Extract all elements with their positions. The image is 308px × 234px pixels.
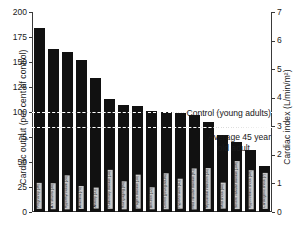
bar-label: Pulmonary disease (10) bbox=[107, 170, 112, 209]
bar: Mild valvular disease (61) bbox=[189, 115, 200, 212]
bar-label: Hyperthyroidism (20) bbox=[65, 175, 70, 209]
y-axis-right-title: Cardiac index (L/min/m²) bbox=[282, 42, 292, 192]
bar: Paget's disease (10) bbox=[132, 106, 143, 212]
bar: Anxiety (31) bbox=[90, 78, 101, 212]
bar-label: Hypertension (41) bbox=[178, 179, 183, 209]
y-tick-label-right: 0 bbox=[277, 208, 282, 217]
annotation-average-line2: old adult bbox=[218, 143, 251, 153]
bar-label: Cardiogenic shock (7) bbox=[262, 173, 267, 209]
y-tick-label-left: 0 bbox=[22, 208, 27, 217]
y-tick-label-left: 200 bbox=[13, 8, 27, 17]
y-tick-right bbox=[272, 12, 275, 13]
bar-label: Beri-beri (12) bbox=[149, 187, 154, 209]
bar-label: Hypovolemic shock (48) bbox=[248, 170, 253, 209]
y-tick-label-right: 3 bbox=[277, 122, 282, 131]
y-tick-label-right: 2 bbox=[277, 150, 282, 159]
bar-label: Severe valvular disease (106) bbox=[234, 161, 239, 209]
bar-label: Mild shock (40) bbox=[220, 183, 225, 209]
bar-label: Control (young adults) bbox=[163, 173, 168, 209]
bar: Anaemia (70) bbox=[76, 60, 87, 212]
bar: Hyperthyroidism (20) bbox=[62, 52, 73, 212]
annotation-average-line1: Average 45 year bbox=[208, 132, 271, 142]
bar-label: Mild valvular disease (61) bbox=[192, 168, 197, 209]
y-tick-right bbox=[272, 41, 275, 42]
bar-label: Pregnancy (36) bbox=[36, 183, 41, 209]
bar: Hypovolemic shock (48) bbox=[245, 150, 256, 212]
y-tick-label-left: 175 bbox=[13, 33, 27, 42]
y-tick-right bbox=[272, 98, 275, 99]
bar: Cardiogenic shock (7) bbox=[259, 166, 270, 212]
annotation-control: Control (young adults) bbox=[186, 108, 271, 118]
bar-label: Paget's disease (10) bbox=[135, 175, 140, 209]
y-tick-label-left: 50 bbox=[18, 158, 27, 167]
y-tick-label-right: 4 bbox=[277, 93, 282, 102]
bar: Rising aging (80) bbox=[118, 105, 129, 212]
plot-area: 0255075100125150175200 01234567 Pregnanc… bbox=[32, 12, 272, 212]
y-tick-right bbox=[272, 126, 275, 127]
bar-label: A-V shunts (30) bbox=[50, 183, 55, 209]
y-tick-label-right: 1 bbox=[277, 179, 282, 188]
bar: Pulmonary disease (10) bbox=[104, 99, 115, 212]
y-tick-right bbox=[272, 183, 275, 184]
y-tick-label-right: 5 bbox=[277, 65, 282, 74]
y-tick-label-left: 25 bbox=[18, 183, 27, 192]
y-tick-label-right: 7 bbox=[277, 8, 282, 17]
bar-label: Rising aging (80) bbox=[121, 181, 126, 209]
y-tick-label-right: 6 bbox=[277, 36, 282, 45]
bar-label: Myocardial infarction (35) bbox=[206, 168, 211, 209]
y-tick-label-left: 100 bbox=[13, 108, 27, 117]
bar: Pregnancy (36) bbox=[34, 28, 45, 212]
bar-label: Anaemia (70) bbox=[79, 186, 84, 209]
reference-line bbox=[32, 127, 272, 128]
y-tick-right bbox=[272, 212, 275, 213]
y-tick-label-left: 150 bbox=[13, 58, 27, 67]
cardiac-output-bar-chart: Cardiac output (per cent of control) Car… bbox=[0, 0, 308, 234]
y-tick-right bbox=[272, 155, 275, 156]
y-tick-left bbox=[29, 212, 32, 213]
bar: A-V shunts (30) bbox=[48, 49, 59, 212]
y-tick-label-left: 75 bbox=[18, 133, 27, 142]
bar-label: Anxiety (31) bbox=[93, 188, 98, 209]
y-tick-label-left: 125 bbox=[13, 83, 27, 92]
y-tick-right bbox=[272, 69, 275, 70]
